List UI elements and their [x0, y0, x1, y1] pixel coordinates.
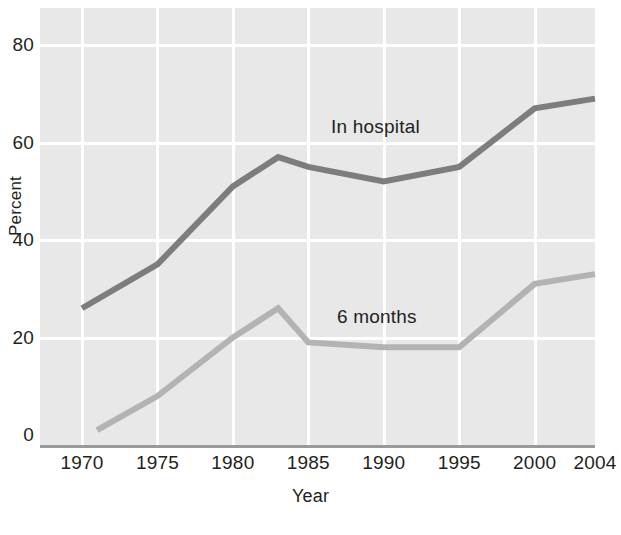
- y-axis-title: Percent: [6, 146, 26, 266]
- x-axis-title: Year: [0, 486, 621, 507]
- y-tick-label-80: 80: [0, 35, 34, 54]
- series-label-in-hospital: In hospital: [331, 117, 420, 137]
- x-tick-label-1975: 1975: [127, 452, 187, 474]
- series-line-6-months: [97, 274, 595, 430]
- y-tick-label-0: 0: [0, 425, 34, 444]
- x-tick-label-1970: 1970: [52, 452, 112, 474]
- y-tick-label-20: 20: [0, 328, 34, 347]
- x-tick-label-1990: 1990: [354, 452, 414, 474]
- y-axis-tick-labels: 020406080: [0, 0, 34, 535]
- series-label-6-months: 6 months: [337, 307, 417, 327]
- x-tick-label-2004: 2004: [565, 452, 621, 474]
- x-tick-label-1985: 1985: [278, 452, 338, 474]
- x-tick-label-2000: 2000: [505, 452, 565, 474]
- line-chart: 020406080 197019751980198519901995200020…: [0, 0, 621, 535]
- x-tick-label-1995: 1995: [429, 452, 489, 474]
- x-tick-label-1980: 1980: [203, 452, 263, 474]
